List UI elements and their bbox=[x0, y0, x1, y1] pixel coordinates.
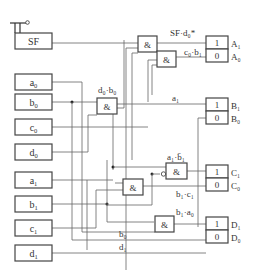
svg-text:1: 1 bbox=[215, 38, 220, 48]
logic-circuit-diagram: SF a0 b0 c0 d0 a1 b1 c1 d1 & & bbox=[0, 0, 254, 273]
svg-text:&: & bbox=[173, 167, 180, 177]
svg-text:B₀: B₀ bbox=[231, 114, 240, 124]
input-c1: c1 bbox=[15, 220, 52, 236]
flipflop-b: 1 0 B₁ B₀ bbox=[206, 98, 240, 124]
label-c0-b1: c₀·b₁ bbox=[184, 47, 202, 57]
and-gate-4: & bbox=[161, 163, 187, 179]
svg-text:A₀: A₀ bbox=[231, 52, 241, 62]
svg-text:&: & bbox=[103, 102, 110, 112]
svg-text:0: 0 bbox=[215, 232, 220, 242]
svg-text:0: 0 bbox=[215, 51, 220, 61]
label-d1: d₁ bbox=[119, 242, 127, 252]
svg-text:1: 1 bbox=[215, 219, 220, 229]
svg-text:D₀: D₀ bbox=[231, 233, 241, 243]
svg-text:B₁: B₁ bbox=[231, 101, 240, 111]
label-b0: b₀ bbox=[119, 229, 127, 239]
svg-text:&: & bbox=[163, 55, 170, 65]
svg-text:C₀: C₀ bbox=[231, 181, 240, 191]
input-a0: a0 bbox=[15, 74, 52, 90]
and-gate-3: & bbox=[97, 98, 117, 114]
label-a1: a₁ bbox=[172, 93, 179, 103]
sf-block: SF bbox=[15, 33, 52, 49]
input-c0: c0 bbox=[15, 119, 52, 135]
svg-text:&: & bbox=[144, 40, 151, 50]
flipflop-c: 1 0 C₁ C₀ bbox=[206, 165, 240, 191]
inverter-bubble bbox=[161, 172, 165, 176]
and-gate-6: & bbox=[155, 216, 174, 232]
svg-text:&: & bbox=[129, 183, 136, 193]
svg-text:&: & bbox=[161, 220, 168, 230]
svg-text:A₁: A₁ bbox=[231, 39, 241, 49]
input-d0: d0 bbox=[15, 144, 52, 160]
svg-text:0: 0 bbox=[215, 113, 220, 123]
flipflop-d: 1 0 D₁ D₀ bbox=[206, 217, 241, 243]
svg-text:0: 0 bbox=[215, 180, 220, 190]
svg-text:D₁: D₁ bbox=[231, 220, 241, 230]
svg-text:1: 1 bbox=[215, 100, 220, 110]
and-gate-5: & bbox=[123, 179, 143, 195]
input-b0: b0 bbox=[15, 94, 52, 110]
input-a1: a1 bbox=[15, 172, 52, 188]
label-sf-d0: SF·d₀* bbox=[170, 28, 196, 38]
flipflop-a: 1 0 A₁ A₀ bbox=[206, 36, 241, 62]
svg-text:1: 1 bbox=[215, 167, 220, 177]
label-d0-b0: d₀·b₀ bbox=[98, 85, 116, 95]
and-gate-2: & bbox=[157, 51, 176, 67]
sf-switch bbox=[10, 21, 29, 33]
input-d1: d1 bbox=[15, 245, 52, 261]
input-b1: b1 bbox=[15, 196, 52, 212]
label-a1-not-b1: a₁·b̄₁ bbox=[167, 152, 185, 162]
svg-text:SF: SF bbox=[28, 36, 40, 47]
and-gate-1: & bbox=[138, 36, 157, 52]
svg-text:C₁: C₁ bbox=[231, 168, 240, 178]
label-b1-c1: b₁·c₁ bbox=[176, 189, 194, 199]
label-b1-a0: b₁·a₀ bbox=[176, 207, 194, 217]
